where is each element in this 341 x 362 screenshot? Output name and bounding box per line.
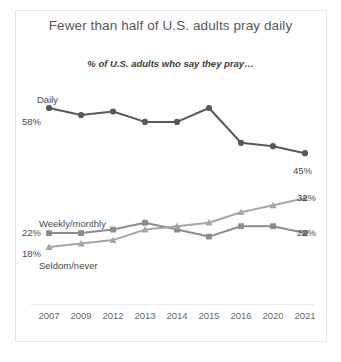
marker-daily-2015 [206, 105, 212, 111]
marker-weekly-monthly-2013 [142, 220, 148, 226]
marker-daily-2009 [78, 112, 84, 118]
x-axis-line [30, 304, 315, 305]
series-label-daily: Daily [37, 94, 58, 105]
chart-plot-area [0, 0, 341, 362]
marker-daily-2021 [302, 150, 308, 156]
marker-weekly-monthly-2012 [110, 227, 116, 233]
marker-daily-2014 [174, 119, 180, 125]
marker-daily-2007 [46, 105, 52, 111]
series-label-seldom-never: Seldom/never [39, 260, 98, 271]
chart-page: Fewer than half of U.S. adults pray dail… [0, 0, 341, 362]
marker-daily-2012 [110, 108, 116, 114]
marker-weekly-monthly-2020 [270, 223, 276, 229]
series-start-value-weekly-monthly: 22% [0, 227, 41, 238]
series-line-daily [49, 108, 305, 153]
marker-daily-2016 [238, 140, 244, 146]
series-start-value-daily: 58% [0, 116, 41, 127]
marker-daily-2013 [142, 119, 148, 125]
x-axis-tick-labels: 200720092012201320142015201620202021 [30, 310, 315, 330]
marker-weekly-monthly-2016 [238, 223, 244, 229]
marker-weekly-monthly-2007 [46, 230, 52, 236]
series-end-value-daily: 45% [293, 165, 312, 176]
x-tick-2021: 2021 [285, 310, 325, 321]
marker-weekly-monthly-2009 [78, 230, 84, 236]
marker-daily-2020 [270, 143, 276, 149]
series-label-weekly-monthly: Weekly/monthly [39, 218, 106, 229]
series-start-value-seldom-never: 18% [0, 248, 41, 259]
marker-weekly-monthly-2015 [206, 234, 212, 240]
series-end-value-seldom-never: 32% [297, 192, 316, 203]
series-end-value-weekly-monthly: 22% [297, 227, 316, 238]
